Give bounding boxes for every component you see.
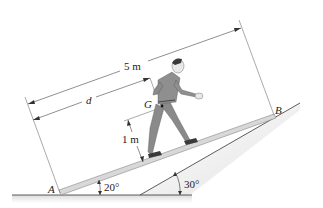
- arrow-icon: [33, 116, 40, 120]
- dimension-d-left: [33, 102, 82, 120]
- distance-d-label: d: [86, 94, 92, 106]
- incline-angle-label: 30°: [184, 178, 199, 190]
- arrow-icon: [143, 78, 150, 82]
- arrow-icon: [234, 28, 241, 32]
- arrow-icon: [28, 100, 35, 104]
- center-of-gravity-dot: [161, 105, 164, 108]
- extension-line-a: [25, 97, 60, 193]
- plank-angle-label: 20°: [104, 181, 119, 193]
- height-1m-label: 1 m: [122, 133, 139, 145]
- point-a-label: A: [47, 183, 55, 195]
- ground-shadow: [12, 195, 192, 203]
- dimension-5m-left: [28, 71, 120, 104]
- center-of-gravity-label: G: [144, 98, 152, 110]
- dimension-d-right: [96, 78, 150, 97]
- length-5m-label: 5 m: [124, 60, 141, 72]
- dimension-5m-right: [148, 28, 241, 61]
- arrow-icon: [127, 120, 131, 126]
- point-b-label: B: [275, 104, 282, 116]
- extension-line-b: [239, 20, 274, 115]
- incline-surface: [140, 103, 300, 195]
- arrow-icon: [98, 191, 102, 195]
- diagram-canvas: 20° 30° A B 5 m d 1 m G: [0, 0, 323, 208]
